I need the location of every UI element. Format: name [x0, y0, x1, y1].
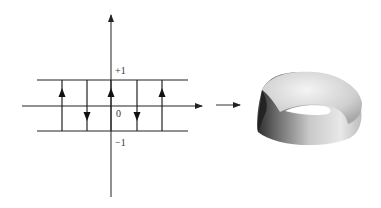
label-zero: 0	[116, 108, 121, 119]
label-plus-one: +1	[115, 65, 126, 76]
label-minus-one: −1	[115, 137, 126, 148]
mobius-strip	[257, 72, 362, 145]
diagram-canvas: +1 0 −1	[0, 0, 381, 208]
